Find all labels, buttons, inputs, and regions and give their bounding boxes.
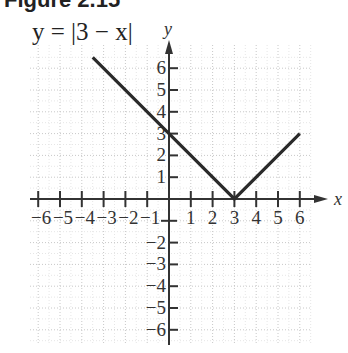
x-tick-label: −6 <box>31 207 51 228</box>
y-tick-label: 5 <box>157 79 167 100</box>
chart-plot: −6−5−4−3−2−1123456−6−5−4−3−2123456xy <box>0 0 348 353</box>
y-tick-label: −3 <box>146 253 166 274</box>
y-tick-label: 6 <box>157 57 167 78</box>
x-axis-arrow-icon <box>314 195 328 203</box>
x-tick-label: −1 <box>140 207 160 228</box>
x-tick-label: 1 <box>186 207 196 228</box>
x-tick-label: 5 <box>273 207 283 228</box>
x-axis-label: x <box>333 189 342 209</box>
y-tick-label: 1 <box>157 166 167 187</box>
y-tick-label: −4 <box>146 275 167 296</box>
y-tick-label: 4 <box>157 101 167 122</box>
y-axis-arrow-icon <box>165 40 173 54</box>
x-tick-label: −4 <box>75 207 96 228</box>
y-tick-label: −5 <box>146 297 166 318</box>
y-tick-label: 2 <box>157 144 167 165</box>
x-tick-label: 6 <box>295 207 305 228</box>
x-tick-label: 2 <box>208 207 218 228</box>
function-graph-line <box>93 57 300 199</box>
x-tick-label: −5 <box>53 207 73 228</box>
x-tick-label: −2 <box>118 207 138 228</box>
y-axis-label: y <box>162 19 172 39</box>
y-tick-label: −6 <box>146 319 166 340</box>
x-tick-label: 4 <box>251 207 261 228</box>
y-tick-label: −2 <box>146 232 166 253</box>
x-tick-label: 3 <box>230 207 240 228</box>
x-tick-label: −3 <box>96 207 116 228</box>
